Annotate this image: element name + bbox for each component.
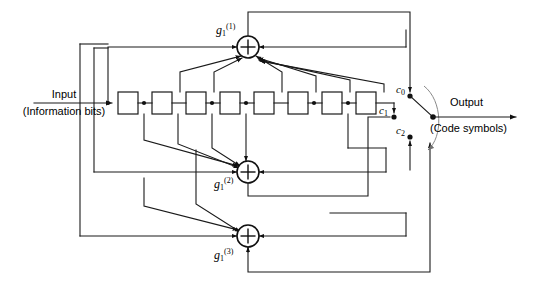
shift-register-chain — [118, 92, 394, 114]
adder-g1-feedback-wire — [259, 30, 406, 47]
adder-g1-output-wire — [248, 12, 410, 92]
register-stage — [186, 92, 206, 114]
adder-g1 — [237, 36, 259, 58]
register-stage — [356, 92, 376, 114]
encoder-diagram — [0, 0, 542, 293]
adder-g3-output-wire — [248, 143, 430, 272]
adder-g3 — [237, 225, 259, 247]
register-stage — [322, 92, 342, 114]
adder-g2 — [237, 161, 259, 183]
switch-label-c1: c1 — [379, 104, 388, 118]
switch-blade — [410, 96, 433, 117]
register-stage — [220, 92, 240, 114]
generator-label-g3: g1(3) — [214, 247, 233, 263]
register-stage — [254, 92, 274, 114]
switch-c2-sub: 2 — [401, 129, 405, 138]
switch-c1-sub: 1 — [384, 109, 388, 118]
adder-g2-feedback-wire — [259, 114, 386, 172]
generator-g1-sup: (1) — [226, 22, 235, 31]
input-title: Input — [12, 88, 116, 101]
figure-canvas: Input (Information bits) Output (Code sy… — [0, 0, 542, 293]
generator-label-g2: g1(2) — [214, 176, 233, 192]
output-title: Output — [450, 96, 483, 109]
register-stage — [288, 92, 308, 114]
switch-label-c0: c0 — [396, 83, 405, 97]
taps-to-adder-g3 — [80, 44, 240, 236]
generator-g3-sup: (3) — [224, 247, 233, 256]
input-subtitle: (Information bits) — [4, 105, 124, 118]
switch-contact-c2 — [407, 134, 412, 139]
generator-label-g1: g1(1) — [216, 22, 235, 38]
switch-label-c2: c2 — [396, 124, 405, 138]
switch-c0-sub: 0 — [401, 88, 405, 97]
adder-g2-output-wire — [248, 117, 390, 196]
generator-g2-sup: (2) — [224, 176, 233, 185]
adder-g3-feedback-wire — [259, 213, 406, 236]
output-subtitle: (Code symbols) — [430, 122, 507, 135]
switch-contact-c1 — [391, 114, 396, 119]
register-stage — [152, 92, 172, 114]
